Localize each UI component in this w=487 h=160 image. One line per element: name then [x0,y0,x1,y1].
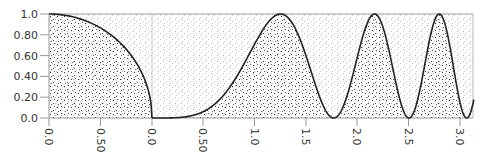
y-tick-label: 1.0 [21,8,39,21]
x-tick-label: 1.5 [299,128,312,146]
y-tick-label: 0.20 [14,91,39,104]
chart: 1.00.800.600.400.200.0 0.00.500.00.501.0… [0,0,487,160]
x-tick-label: 0.0 [145,128,158,146]
x-tick-label: 1.0 [248,128,261,146]
x-ticks: 0.00.500.00.501.01.52.02.53.0 [42,118,466,153]
y-tick-label: 0.80 [14,29,39,42]
y-tick-label: 0.0 [21,112,39,125]
x-tick-label: 3.0 [453,128,466,146]
y-ticks: 1.00.800.600.400.200.0 [14,8,50,125]
x-tick-label: 0.50 [94,128,107,153]
y-tick-label: 0.60 [14,50,39,63]
x-tick-label: 0.50 [196,128,209,153]
x-tick-label: 2.5 [402,128,415,146]
x-tick-label: 2.0 [350,128,363,146]
y-tick-label: 0.40 [14,70,39,83]
x-tick-label: 0.0 [42,128,55,146]
